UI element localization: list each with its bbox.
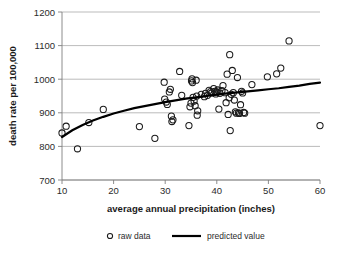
y-tick-700: 700	[39, 175, 55, 186]
x-tick-30: 30	[160, 185, 171, 196]
y-tick-1000: 1000	[34, 74, 55, 85]
y-tick-800: 800	[39, 141, 55, 152]
y-axis-title: death rate per 100,000	[7, 46, 18, 146]
legend-label-predicted-value: predicted value	[207, 231, 265, 241]
scatter-chart: 700800900100011001200 102030405060 avera…	[0, 0, 338, 254]
x-tick-20: 20	[108, 185, 119, 196]
y-tick-1200: 1200	[34, 7, 55, 18]
x-tick-10: 10	[57, 185, 68, 196]
legend-label-raw-data: raw data	[118, 231, 151, 241]
x-tick-40: 40	[212, 185, 223, 196]
y-tick-1100: 1100	[35, 40, 55, 51]
x-tick-50: 50	[263, 185, 274, 196]
x-axis-title: average annual precipitation (inches)	[107, 203, 275, 214]
chart-canvas: 700800900100011001200 102030405060 avera…	[0, 0, 338, 254]
x-tick-60: 60	[315, 185, 326, 196]
y-tick-900: 900	[39, 107, 55, 118]
